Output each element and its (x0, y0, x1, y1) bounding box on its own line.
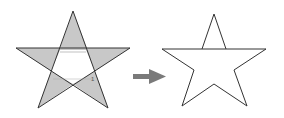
right-star (162, 14, 266, 106)
right-star-outline (162, 14, 266, 106)
arrow-right-icon (133, 69, 166, 84)
diagram-canvas: 1 (0, 0, 284, 118)
left-star: 1 (16, 11, 130, 108)
